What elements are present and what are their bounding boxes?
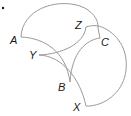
arc-a-c <box>21 4 100 38</box>
bullet-dot <box>2 7 4 9</box>
triangle-abc <box>21 4 100 82</box>
geometry-diagram <box>0 0 131 116</box>
label-a: A <box>10 35 17 46</box>
triangle-xyz <box>39 26 126 106</box>
label-c: C <box>101 37 109 48</box>
label-y: Y <box>29 50 36 61</box>
label-z: Z <box>75 20 82 31</box>
label-b: B <box>58 82 65 93</box>
label-x: X <box>73 102 80 113</box>
